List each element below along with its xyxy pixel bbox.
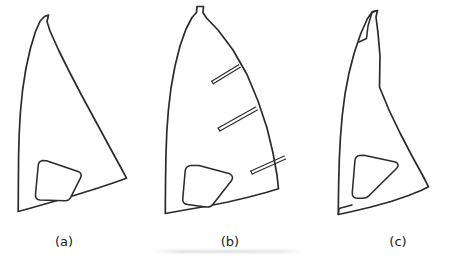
sail-panel-a	[18, 15, 126, 212]
caption-c: (c)	[389, 235, 406, 248]
print-smudge	[152, 250, 307, 253]
sail-panel-c	[338, 11, 428, 215]
sail-diagram	[0, 0, 460, 259]
sail-outline-c	[338, 11, 428, 215]
figure-container: (a) (b) (c)	[0, 0, 460, 259]
sail-panel-b	[165, 7, 285, 214]
caption-b: (b)	[221, 235, 239, 248]
caption-a: (a)	[55, 235, 73, 248]
